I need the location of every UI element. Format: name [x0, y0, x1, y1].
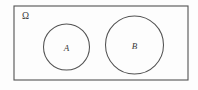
venn-diagram-canvas: Ω A B [0, 0, 198, 90]
sample-space-rectangle [14, 6, 188, 80]
venn-diagram-figure: Ω A B [0, 0, 198, 90]
set-label-b: B [132, 41, 138, 51]
omega-symbol: Ω [22, 11, 29, 21]
set-label-a: A [63, 43, 70, 53]
